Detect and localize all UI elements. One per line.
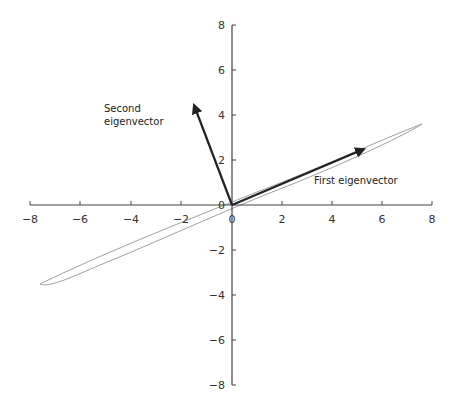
x-tick-label: −4 [123, 213, 139, 226]
x-tick-label: 2 [279, 213, 286, 226]
y-tick-label: 6 [218, 64, 225, 77]
y-tick-label: 0 [218, 199, 225, 212]
x-tick-label: −2 [173, 213, 189, 226]
y-tick-label: −8 [209, 379, 225, 392]
y-tick-label: −6 [209, 334, 225, 347]
x-tick-label: 6 [379, 213, 386, 226]
x-tick-label: −6 [72, 213, 88, 226]
y-tick-label: −2 [209, 244, 225, 257]
y-tick-label: 8 [218, 19, 225, 32]
second-eigenvector-label-line1: Second [104, 103, 141, 114]
y-tick-label: 4 [218, 109, 225, 122]
x-tick-label: 8 [429, 213, 436, 226]
x-tick-label: 4 [329, 213, 336, 226]
first-eigenvector-label: First eigenvector [314, 175, 399, 186]
second-eigenvector-arrow [194, 105, 232, 205]
second-eigenvector-label-line2: eigenvector [104, 116, 164, 127]
y-tick-label: −4 [209, 289, 225, 302]
x-tick-label: −8 [22, 213, 38, 226]
eigenvector-diagram: −8 −6 −4 −2 0 2 4 6 8 8 6 4 2 0 −2 −4 −6… [0, 0, 459, 413]
x-axis: −8 −6 −4 −2 0 2 4 6 8 [22, 201, 436, 226]
y-tick-label: 2 [218, 154, 225, 167]
